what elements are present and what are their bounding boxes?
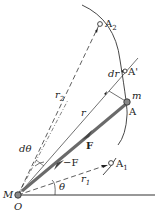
r2-line (18, 25, 99, 195)
label-r2: r2 (55, 89, 65, 103)
dtheta-tick (36, 160, 44, 166)
point-a1 (109, 161, 114, 166)
label-r: r (81, 107, 87, 118)
label-a-prime: A' (127, 66, 138, 77)
label-m-origin: M (2, 189, 14, 200)
label-dr: dr (108, 68, 120, 79)
label-o: O (14, 201, 22, 212)
r1-arrowhead (101, 165, 108, 168)
point-a-prime (123, 69, 127, 73)
force-vector-f (22, 104, 126, 191)
label-theta: θ (59, 181, 65, 192)
label-neg-force: −F (63, 157, 78, 168)
label-r1: r1 (81, 173, 90, 187)
orbit-diagram: A2 dr A' m A r r2 F −F A1 r1 dθ θ M O (0, 0, 158, 215)
point-a2 (98, 22, 103, 27)
label-dtheta: dθ (19, 143, 31, 154)
label-a: A (128, 106, 137, 117)
mass-m (124, 99, 130, 105)
label-force-f: F (86, 140, 93, 151)
label-a1: A1 (115, 158, 128, 172)
theta-arc (52, 180, 55, 195)
label-m: m (132, 90, 141, 101)
r-line-extended (18, 58, 138, 195)
origin-mass-m (15, 192, 21, 198)
